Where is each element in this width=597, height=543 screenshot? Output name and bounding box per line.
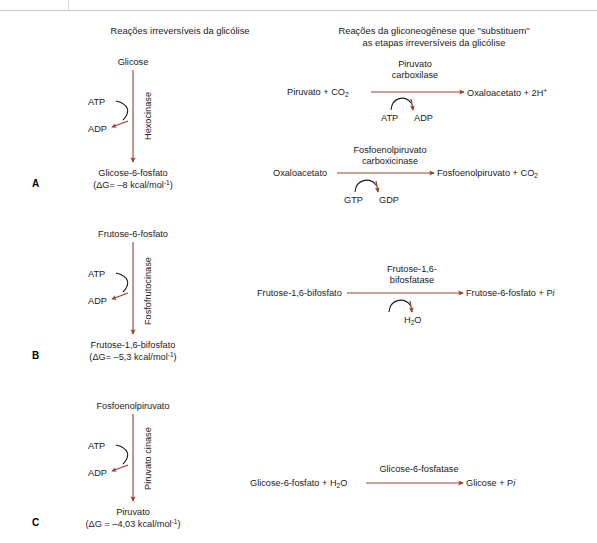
panel-c-deltag-text: (ΔG = –4,03 kcal/mol (85, 519, 171, 529)
right-column-title-line2: as etapas irreversíveis da glicólise (338, 37, 529, 49)
panel-b-gluco1-enzyme: Frutose-1,6- bifosfatase (387, 264, 437, 286)
panel-a-product-name: Glicose-6-fosfato (93, 168, 173, 179)
panel-c-product-deltag: (ΔG = –4,03 kcal/mol-1) (85, 518, 180, 530)
panel-a-glycolysis-substrate: Glicose (118, 57, 149, 68)
panel-c-gluco1-substrate: Glicose-6-fosfato + H2O (250, 478, 347, 490)
panel-c-glycolysis-arrow (112, 414, 133, 501)
panel-a-gluco1-substrate-text: Piruvato + CO (287, 87, 345, 97)
panel-a-product-deltag: (ΔG= –8 kcal/mol-1) (93, 179, 173, 191)
panel-a-deltag-text: (ΔG= –8 kcal/mol (93, 180, 164, 190)
panel-letter-c: C (32, 517, 39, 529)
panel-b-gluco1-enzyme-line1: Frutose-1,6- (387, 264, 437, 275)
panel-a-gluco2-enzyme: Fosfoenolpiruvato carboxicinase (353, 145, 426, 167)
panel-b-gluco1-substrate: Frutose-1,6-bifosfato (257, 288, 342, 299)
panel-c-gluco1-substrate-post: O (340, 478, 347, 488)
panel-b-gluco1-product-italic: i (553, 288, 555, 298)
panel-b-gluco1-arrow (347, 293, 463, 312)
panel-c-glycolysis-substrate: Fosfoenolpiruvato (96, 401, 169, 412)
panel-a-gluco2-enzyme-line1: Fosfoenolpiruvato (353, 145, 426, 156)
panel-a-gluco2-product-sub: 2 (534, 172, 538, 179)
panel-a-gluco2-enzyme-line2: carboxicinase (353, 156, 426, 167)
panel-a-gluco1-cofactor-out: ADP (414, 113, 433, 124)
right-column-title: Reações da gliconeogênese que "substitue… (338, 25, 529, 50)
top-border-divider (0, 10, 597, 11)
panel-a-deltag-close: ) (170, 180, 173, 190)
panel-a-gluco2-product: Fosfoenolpiruvato + CO2 (437, 168, 538, 180)
panel-c-product-name: Piruvato (85, 507, 180, 518)
panel-b-glycolysis-substrate: Frutose-6-fosfato (98, 229, 168, 240)
panel-c-glycolysis-product: Piruvato (ΔG = –4,03 kcal/mol-1) (85, 507, 180, 530)
panel-a-gluco1-product: Oxaloacetato + 2H+ (467, 87, 547, 99)
panel-c-gluco1-product: Glicose + Pi (466, 478, 515, 489)
panel-letter-b: B (32, 350, 39, 362)
panel-a-cofactor-in: ATP (88, 97, 105, 108)
panel-a-gluco1-product-text: Oxaloacetato + 2H (467, 88, 543, 98)
panel-b-glycolysis-arrow (112, 242, 133, 334)
panel-b-gluco1-product: Frutose-6-fosfato + Pi (466, 288, 555, 299)
right-column-title-line1: Reações da gliconeogênese que "substitue… (338, 25, 529, 37)
panel-c-cofactor-out: ADP (88, 468, 107, 479)
top-border-tick (68, 0, 69, 10)
panel-b-gluco1-product-text: Frutose-6-fosfato + P (466, 288, 553, 298)
panel-b-gluco1-cofactor-out: H2O (404, 315, 421, 327)
panel-a-gluco1-substrate: Piruvato + CO2 (287, 87, 349, 99)
panel-a-gluco1-enzyme: Piruvato carboxilase (392, 59, 438, 81)
panel-a-glycolysis-product: Glicose-6-fosfato (ΔG= –8 kcal/mol-1) (93, 168, 173, 191)
panel-a-gluco1-enzyme-line2: carboxilase (392, 70, 438, 81)
panel-b-deltag-text: (ΔG= –5,3 kcal/mol (89, 352, 167, 362)
panel-a-gluco1-cofactor-in: ATP (381, 113, 398, 124)
panel-b-water-h: H (404, 315, 411, 325)
glycolysis-gluconeogenesis-figure: Reações irreversíveis da glicólise Reaçõ… (0, 0, 597, 543)
panel-c-gluco1-product-text: Glicose + P (466, 478, 513, 488)
panel-a-gluco1-arrow (371, 92, 464, 110)
panel-a-gluco1-product-sup: + (543, 87, 547, 94)
panel-c-gluco1-substrate-text: Glicose-6-fosfato + H (250, 478, 337, 488)
panel-a-gluco1-enzyme-line1: Piruvato (392, 59, 438, 70)
panel-a-gluco2-product-text: Fosfoenolpiruvato + CO (437, 168, 534, 178)
panel-a-glycolysis-enzyme: Hexocinase (143, 92, 153, 140)
panel-b-deltag-close: ) (174, 352, 177, 362)
panel-a-gluco2-arrow (337, 173, 434, 192)
panel-a-gluco2-substrate: Oxaloacetato (273, 168, 327, 179)
panel-b-gluco1-enzyme-line2: bifosfatase (387, 275, 437, 286)
panel-a-gluco1-substrate-sub: 2 (345, 91, 349, 98)
panel-a-gluco2-cofactor-out: GDP (379, 195, 399, 206)
panel-c-deltag-close: ) (177, 519, 180, 529)
panel-a-glycolysis-arrow (112, 70, 133, 162)
panel-a-gluco2-cofactor-in: GTP (344, 195, 363, 206)
panel-b-glycolysis-product: Frutose-1,6-bifosfato (ΔG= –5,3 kcal/mol… (89, 340, 176, 363)
panel-b-water-o: O (414, 315, 421, 325)
panel-c-cofactor-in: ATP (88, 441, 105, 452)
panel-b-cofactor-out: ADP (88, 296, 107, 307)
left-column-title: Reações irreversíveis da glicólise (110, 25, 249, 37)
panel-letter-a: A (32, 178, 39, 190)
panel-c-glycolysis-enzyme: Piruvato cinase (143, 427, 153, 490)
panel-b-product-name: Frutose-1,6-bifosfato (89, 340, 176, 351)
panel-b-cofactor-in: ATP (88, 269, 105, 280)
panel-a-cofactor-out: ADP (88, 124, 107, 135)
panel-b-glycolysis-enzyme: Fosfofrutocinase (143, 257, 153, 325)
panel-c-gluco1-enzyme: Glicose-6-fosfatase (379, 464, 458, 475)
panel-c-gluco1-product-italic: i (513, 478, 515, 488)
panel-b-product-deltag: (ΔG= –5,3 kcal/mol-1) (89, 351, 176, 363)
